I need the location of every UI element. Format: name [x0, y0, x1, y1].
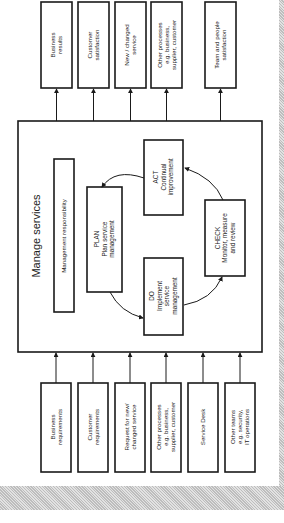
- label-line: Request for new/: [123, 403, 130, 450]
- label-line: supplier, customer: [170, 20, 177, 70]
- manage-services-title: Manage services: [30, 194, 42, 278]
- label-line: Team and people: [213, 21, 220, 69]
- label-line: management: [171, 277, 179, 315]
- label-line: e.g. security,: [236, 409, 243, 444]
- label-line: New / changed: [123, 24, 130, 66]
- label-line: DO: [148, 291, 155, 301]
- input-label: Customerrequirements: [86, 409, 100, 445]
- label-line: Monitor, measure: [221, 213, 228, 263]
- label-line: results: [56, 36, 63, 54]
- label-line: service: [163, 285, 170, 306]
- label-line: e.g. business,: [162, 408, 169, 446]
- label-line: Other processes: [156, 22, 163, 67]
- output-label: Businessresults: [49, 32, 63, 57]
- label-line: satisfaction: [93, 29, 100, 61]
- output-boxes: BusinessresultsCustomersatisfactionNew /…: [41, 2, 236, 121]
- label-line: supplier, customer: [169, 402, 176, 452]
- label-line: changed service: [130, 404, 137, 450]
- diagram-canvas: Manage services Management responsibilit…: [0, 0, 284, 523]
- label-line: service: [130, 35, 137, 55]
- label-line: requirements: [93, 409, 100, 445]
- input-boxes: BusinessrequirementsCustomerrequirements…: [41, 353, 255, 472]
- input-label: Request for new/changed service: [123, 403, 137, 450]
- label-line: and review: [229, 222, 236, 253]
- label-line: Customer: [86, 32, 93, 59]
- label-line: Business: [49, 32, 56, 57]
- label-line: ACT: [152, 171, 159, 184]
- label-line: IT operations: [243, 409, 250, 445]
- page-edge-shadow-bottom: [0, 486, 284, 510]
- label-line: e.g. business,: [163, 26, 170, 64]
- label-line: Other teams: [229, 410, 236, 444]
- output-label: Other processese.g. business,supplier, c…: [156, 20, 177, 70]
- label-line: improvement: [167, 158, 175, 195]
- label-line: management: [108, 220, 116, 258]
- management-responsibility-label: Management responsibility: [60, 198, 67, 273]
- output-label: Customersatisfaction: [86, 29, 100, 61]
- label-line: Service Desk: [199, 408, 206, 445]
- label-line: Plan service: [101, 221, 108, 256]
- input-label: Other teamse.g. security,IT operations: [229, 409, 250, 445]
- label-line: Customer: [86, 414, 93, 441]
- label-line: Business: [49, 414, 56, 439]
- label-line: Other processes: [155, 404, 162, 449]
- label-line: PLAN: [93, 230, 100, 247]
- label-line: satisfaction: [220, 29, 227, 61]
- label-line: CHECK: [214, 226, 221, 249]
- process-diagram: Manage services Management responsibilit…: [0, 0, 284, 486]
- input-label: Other processese.g. business,supplier, c…: [155, 402, 176, 452]
- input-label: Service Desk: [199, 408, 206, 445]
- label-line: Continual: [160, 163, 167, 190]
- label-line: requirements: [56, 409, 63, 445]
